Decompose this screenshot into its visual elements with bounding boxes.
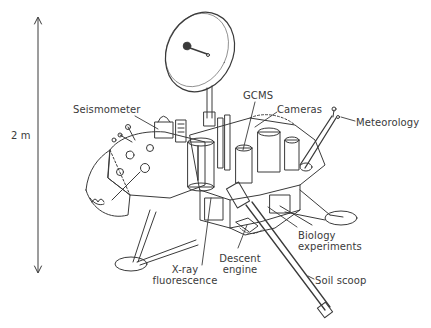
scale-arrow [35, 17, 42, 273]
meteorology-boom [300, 107, 340, 171]
scale-label: 2 m [11, 130, 31, 141]
antenna-dish [153, 1, 247, 126]
label-meteorology: Meteorology [356, 117, 419, 128]
label-xray-fluorescence: X-ray fluorescence [150, 264, 220, 286]
label-seismometer: Seismometer [73, 104, 141, 115]
left-body [86, 132, 205, 217]
label-biology-experiments: Biology experiments [298, 230, 362, 252]
label-soil-scoop: Soil scoop [315, 275, 367, 286]
label-descent-engine: Descent engine [215, 253, 265, 275]
label-cameras: Cameras [277, 104, 322, 115]
seismometer-unit [112, 116, 186, 142]
label-gcms: GCMS [243, 90, 273, 101]
viking-lander-diagram: 2 m Seismometer GCMS Cameras Meteorology… [0, 0, 431, 328]
